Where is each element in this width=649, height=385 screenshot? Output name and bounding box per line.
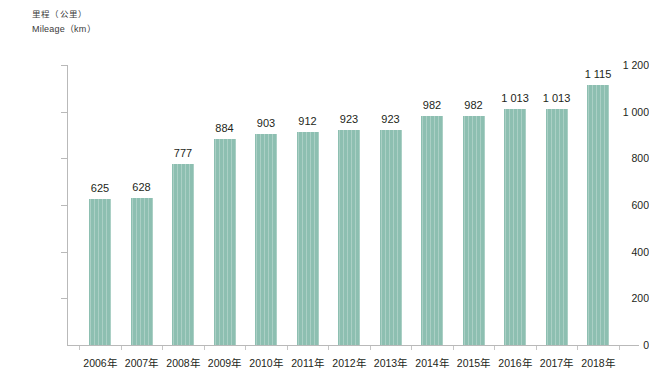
bar [255,134,277,345]
x-axis-tick [619,346,620,350]
x-axis-tick [328,346,329,350]
bar-value-label: 923 [381,113,399,125]
x-axis-label: 2009年 [208,355,241,370]
bar [380,130,402,345]
bar-value-label: 625 [91,182,109,194]
x-axis-label: 2011年 [291,355,324,370]
bar [504,109,526,345]
x-axis-label: 2016年 [498,355,531,370]
y-axis-tick [61,112,67,113]
x-axis-tick [245,346,246,350]
x-axis-label: 2012年 [332,355,365,370]
bar-value-label: 1 115 [585,68,612,80]
x-axis-label: 2015年 [457,355,490,370]
x-axis-label: 2014年 [415,355,448,370]
bar [214,139,236,345]
x-axis-label: 2007年 [125,355,158,370]
bar-value-label: 777 [174,147,192,159]
bar [172,164,194,345]
y-axis-line [67,65,68,346]
x-axis-label: 2006年 [83,355,116,370]
bar [89,199,111,345]
bar-value-label: 923 [340,113,358,125]
x-axis-label: 2017年 [540,355,573,370]
y-axis-tick [61,65,67,66]
x-axis-tick [287,346,288,350]
x-axis-tick [204,346,205,350]
bar [463,116,485,345]
y-axis-title-chinese: 里程（公里） [32,8,96,20]
x-axis-tick [411,346,412,350]
bar [297,132,319,345]
bar-value-label: 884 [215,122,233,134]
bar [421,116,443,345]
x-axis-tick [121,346,122,350]
x-axis-tick [494,346,495,350]
x-axis-tick [577,346,578,350]
bar-value-label: 628 [132,181,150,193]
bar [546,109,568,345]
x-axis-tick [453,346,454,350]
y-axis-title-english: Mileage（km） [32,23,96,36]
bar [338,130,360,345]
y-axis-tick [61,298,67,299]
x-axis-tick [370,346,371,350]
bar [131,198,153,345]
x-axis-label: 2008年 [166,355,199,370]
axis-title-block: 里程（公里） Mileage（km） [32,8,96,36]
x-axis-tick [536,346,537,350]
mileage-bar-chart: 里程（公里） Mileage（km） 02004006008001 0001 2… [0,0,649,385]
bar-value-label: 912 [298,115,316,127]
y-axis-tick [61,158,67,159]
x-axis-label: 2018年 [581,355,614,370]
x-axis-label: 2010年 [249,355,282,370]
bar-value-label: 903 [257,117,275,129]
x-axis-line [67,345,639,346]
y-axis-tick [61,205,67,206]
bar-value-label: 1 013 [543,92,571,104]
bar-value-label: 982 [423,99,441,111]
y-axis-tick [61,252,67,253]
bar-value-label: 982 [464,99,482,111]
x-axis-label: 2013年 [374,355,407,370]
x-axis-tick [79,346,80,350]
x-axis-tick [162,346,163,350]
bar-value-label: 1 013 [501,92,529,104]
bar [587,85,609,345]
